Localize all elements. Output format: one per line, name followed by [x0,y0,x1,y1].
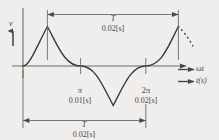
figure-canvas [0,0,219,140]
bottom-dimension-symbol: T [82,120,87,129]
top-dimension-symbol: T [111,14,116,23]
v-axis-label: v [9,20,13,28]
tick-label-pi-value: 0.01[s] [69,97,91,105]
top-dimension-value: 0.02[s] [102,25,124,33]
tick-label-2pi-symbol: 2π [142,86,151,95]
bottom-dimension-value: 0.02[s] [73,131,95,139]
tick-label-2pi-value: 0.02[s] [135,97,157,105]
omega-t-axis-label: ωt [196,65,204,73]
curve-continuation-dots [178,27,192,46]
t-seconds-axis-label: t(s) [196,77,207,85]
waveform-figure: v T 0.02[s] π 0.01[s] 2π 0.02[s] T 0.02[… [0,0,219,140]
tick-label-pi-symbol: π [78,86,82,95]
